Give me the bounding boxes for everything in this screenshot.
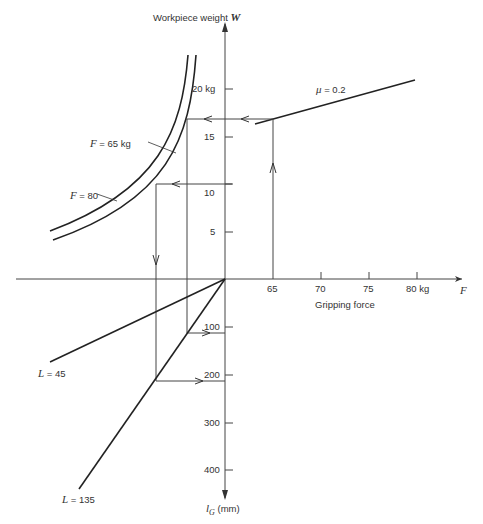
- y-ticks-down: [225, 327, 233, 470]
- line-l135: [79, 279, 225, 489]
- y-axis-down-arrow: [222, 490, 228, 500]
- line-l45: [50, 279, 225, 362]
- lg-unit: (mm): [215, 503, 240, 514]
- y-tick-label-100: 100: [204, 322, 220, 332]
- y-axis-bottom-title: lG (mm): [206, 503, 240, 517]
- x-axis-title: Gripping force: [315, 300, 375, 310]
- y-tick-label-300: 300: [204, 418, 220, 428]
- y-axis-title-var: W: [230, 11, 240, 23]
- mu-rest: = 0.2: [322, 84, 346, 95]
- l45-rest: = 45: [44, 368, 65, 379]
- f65-leader: [148, 142, 176, 153]
- label-f65: F = 65 kg: [90, 138, 131, 149]
- f80-rest: = 80: [77, 190, 98, 201]
- x-tick-label-70: 70: [315, 284, 326, 294]
- label-l135: L = 135: [62, 494, 95, 505]
- x-axis-var: F: [460, 285, 467, 296]
- l135-rest: = 135: [68, 494, 95, 505]
- x-ticks: [321, 272, 417, 279]
- gripping-force-nomogram: Workpiece weight W 5 10 15 20 kg 100 200…: [0, 0, 483, 524]
- y-ticks-up: [225, 89, 233, 232]
- y-tick-label-15: 15: [204, 132, 215, 142]
- f80-var: F: [70, 189, 77, 201]
- x-tick-label-80kg: 80 kg: [406, 284, 429, 294]
- y-tick-label-20kg: 20 kg: [192, 84, 215, 94]
- nomogram-graphics: [0, 0, 483, 524]
- x-tick-label-65: 65: [267, 284, 278, 294]
- y-axis-up-arrow: [222, 22, 228, 32]
- x-tick-label-75: 75: [363, 284, 374, 294]
- label-mu: μ = 0.2: [316, 84, 346, 95]
- y-tick-label-5: 5: [210, 227, 215, 237]
- y-axis-title-text: Workpiece weight: [153, 12, 230, 23]
- f65-rest: = 65 kg: [97, 138, 131, 149]
- y-tick-label-200: 200: [204, 370, 220, 380]
- y-axis-title: Workpiece weight W: [153, 12, 240, 23]
- y-tick-label-400: 400: [204, 465, 220, 475]
- label-f80: F = 80: [70, 190, 98, 201]
- label-l45: L = 45: [38, 368, 66, 379]
- f80-leader: [97, 194, 117, 201]
- f65-var: F: [90, 137, 97, 149]
- y-tick-label-10: 10: [204, 188, 215, 198]
